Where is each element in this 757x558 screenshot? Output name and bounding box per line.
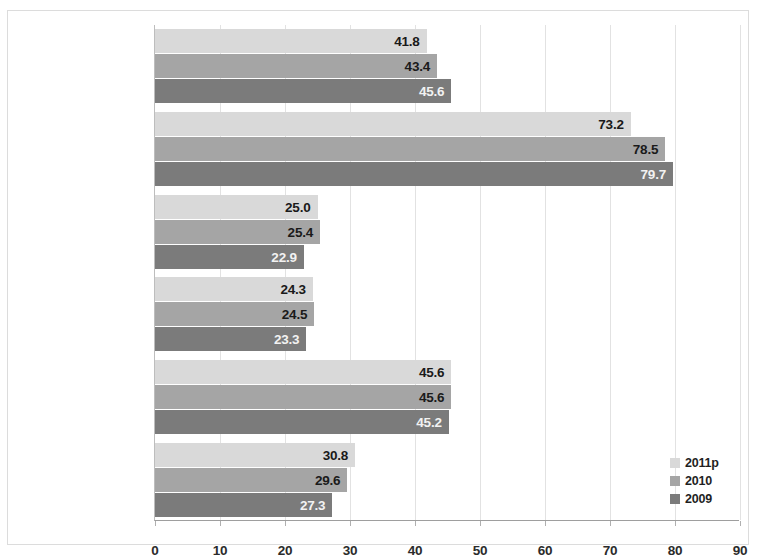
bar-row: 79.7 <box>155 162 739 186</box>
bar-row: 78.5 <box>155 137 739 161</box>
legend-item[interactable]: 2009 <box>670 490 719 507</box>
bar-value-label: 24.5 <box>282 307 307 322</box>
bar-value-label: 25.4 <box>288 224 313 239</box>
bar-row: 43.4 <box>155 54 739 78</box>
bar[interactable] <box>155 360 451 384</box>
bar-value-label: 22.9 <box>271 249 296 264</box>
bar-value-label: 30.8 <box>323 447 348 462</box>
legend-label: 2011p <box>685 456 719 470</box>
bar[interactable] <box>155 112 631 136</box>
category-group: Guatemala (GC)24.324.523.3 <box>155 273 739 356</box>
bar[interactable] <box>155 137 665 161</box>
tick-mark <box>350 521 351 526</box>
bar-row: 22.9 <box>155 245 739 269</box>
tick-mark <box>610 521 611 526</box>
bar-row: 73.2 <box>155 112 739 136</box>
x-tick-label: 30 <box>343 543 358 558</box>
bar-value-label: 41.8 <box>394 34 419 49</box>
bar[interactable] <box>155 29 427 53</box>
plot-area: Panamá (SPNF)41.843.445.6Nicargua (SPNF)… <box>154 25 739 521</box>
legend-swatch-icon <box>670 458 680 468</box>
tick-mark <box>415 521 416 526</box>
x-tick-label: 70 <box>603 543 618 558</box>
gridline <box>740 25 741 520</box>
bar-value-label: 79.7 <box>641 166 666 181</box>
bar-value-label: 45.2 <box>416 414 441 429</box>
x-tick-label: 50 <box>473 543 488 558</box>
x-tick-label: 90 <box>733 543 748 558</box>
bar-row: 45.6 <box>155 79 739 103</box>
bar[interactable] <box>155 79 451 103</box>
bar-value-label: 45.6 <box>419 84 444 99</box>
tick-mark <box>675 521 676 526</box>
bar-row: 41.8 <box>155 29 739 53</box>
bar-value-label: 45.6 <box>419 364 444 379</box>
chart-frame: Panamá (SPNF)41.843.445.6Nicargua (SPNF)… <box>7 10 749 545</box>
x-tick-label: 60 <box>538 543 553 558</box>
bar-value-label: 23.3 <box>274 332 299 347</box>
x-tick-label: 20 <box>278 543 293 558</box>
tick-mark <box>545 521 546 526</box>
bar-value-label: 24.3 <box>280 282 305 297</box>
x-tick-label: 0 <box>151 543 158 558</box>
bar-row: 25.0 <box>155 195 739 219</box>
legend-label: 2010 <box>685 474 712 488</box>
bar[interactable] <box>155 385 451 409</box>
legend-swatch-icon <box>670 494 680 504</box>
bar-value-label: 25.0 <box>285 199 310 214</box>
legend-item[interactable]: 2011p <box>670 454 719 471</box>
bar-row: 24.3 <box>155 277 739 301</box>
bar-value-label: 73.2 <box>598 116 623 131</box>
legend-item[interactable]: 2010 <box>670 472 719 489</box>
bar-row: 25.4 <box>155 220 739 244</box>
bar-value-label: 27.3 <box>300 497 325 512</box>
legend-swatch-icon <box>670 476 680 486</box>
bar-value-label: 29.6 <box>315 472 340 487</box>
category-group: Nicargua (SPNF)73.278.579.7 <box>155 108 739 191</box>
x-tick-label: 10 <box>213 543 228 558</box>
bar-value-label: 78.5 <box>633 141 658 156</box>
category-group: Costa Rica (GC)30.829.627.3 <box>155 438 739 521</box>
bar-row: 45.6 <box>155 360 739 384</box>
bar-value-label: 43.4 <box>405 59 430 74</box>
chart-legend: 2011p20102009 <box>670 454 719 508</box>
legend-label: 2009 <box>685 492 712 506</box>
x-tick-label: 40 <box>408 543 423 558</box>
bar-row: 29.6 <box>155 468 739 492</box>
bar-row: 23.3 <box>155 327 739 351</box>
bar[interactable] <box>155 410 449 434</box>
bar-row: 27.3 <box>155 493 739 517</box>
category-group: El Salvador (GC)45.645.645.2 <box>155 356 739 439</box>
x-tick-label: 80 <box>668 543 683 558</box>
bar-row: 30.8 <box>155 443 739 467</box>
bar[interactable] <box>155 162 673 186</box>
bar-value-label: 45.6 <box>419 389 444 404</box>
tick-mark <box>220 521 221 526</box>
bar-row: 45.6 <box>155 385 739 409</box>
category-group: Panamá (SPNF)41.843.445.6 <box>155 25 739 108</box>
bar[interactable] <box>155 54 437 78</box>
category-group: Honduras (SPNF)25.025.422.9 <box>155 190 739 273</box>
bar-row: 24.5 <box>155 302 739 326</box>
tick-mark <box>155 521 156 526</box>
tick-mark <box>480 521 481 526</box>
tick-mark <box>740 521 741 526</box>
bar-row: 45.2 <box>155 410 739 434</box>
tick-mark <box>285 521 286 526</box>
